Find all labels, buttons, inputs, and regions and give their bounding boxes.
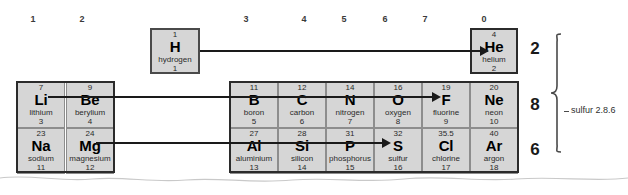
arrow-magnesium-to-sulfur-line bbox=[96, 142, 384, 144]
shell-grouping-bracket bbox=[549, 32, 565, 154]
element-cell-sulfur[interactable]: 32Ssulfur16 bbox=[374, 128, 422, 174]
group-header-2: 2 bbox=[72, 14, 92, 24]
element-cell-argon[interactable]: 40Arargon18 bbox=[470, 128, 518, 174]
element-atomic-number: 4 bbox=[67, 117, 113, 127]
element-cell-oxygen[interactable]: 16Ooxygen8 bbox=[374, 82, 422, 128]
element-cell-sodium[interactable]: 23Nasodium11 bbox=[17, 128, 65, 174]
group-header-4: 4 bbox=[294, 14, 314, 24]
element-symbol: Al bbox=[231, 138, 277, 154]
element-cell-berylium[interactable]: 9Beberylium4 bbox=[66, 82, 114, 128]
element-symbol: N bbox=[327, 92, 373, 108]
element-symbol: Na bbox=[18, 138, 64, 154]
element-cell-fluorine[interactable]: 19Ffluorine9 bbox=[422, 82, 470, 128]
element-cell-lithium[interactable]: 7Lilithium3 bbox=[17, 82, 65, 128]
arrow-beryllium-to-neon-head bbox=[432, 92, 441, 102]
arrow-hydrogen-to-helium-head bbox=[480, 46, 489, 56]
element-atomic-number: 5 bbox=[231, 117, 277, 127]
element-symbol: P bbox=[327, 138, 373, 154]
element-cell-neon[interactable]: 20Neneon10 bbox=[470, 82, 518, 128]
element-cell-hydrogen[interactable]: 1 H hydrogen 1 bbox=[150, 28, 200, 74]
element-atomic-number: 6 bbox=[279, 117, 325, 127]
element-symbol: F bbox=[423, 92, 469, 108]
group-header-7: 7 bbox=[415, 14, 435, 24]
element-cell-phosphorus[interactable]: 31Pphosphorus15 bbox=[326, 128, 374, 174]
element-atomic-number: 3 bbox=[18, 117, 64, 127]
element-atomic-number: 8 bbox=[375, 117, 421, 127]
element-symbol: B bbox=[231, 92, 277, 108]
element-symbol: Mg bbox=[67, 138, 113, 154]
element-cell-aluminium[interactable]: 27Alaluminium13 bbox=[230, 128, 278, 174]
group-header-6: 6 bbox=[375, 14, 395, 24]
annotation-leader-dash bbox=[564, 111, 569, 112]
arrow-beryllium-to-neon-line bbox=[48, 96, 434, 98]
element-symbol: Ne bbox=[471, 92, 517, 108]
element-symbol: C bbox=[279, 92, 325, 108]
annotation-sulfur-configuration: sulfur 2.8.6 bbox=[571, 105, 616, 115]
group-header-0: 0 bbox=[474, 14, 494, 24]
element-symbol: O bbox=[375, 92, 421, 108]
element-cell-boron[interactable]: 11Bboron5 bbox=[230, 82, 278, 128]
element-atomic-number: 9 bbox=[423, 117, 469, 127]
element-symbol: Ar bbox=[471, 138, 517, 154]
element-atomic-number: 2 bbox=[472, 64, 516, 74]
element-symbol: He bbox=[472, 39, 516, 55]
element-atomic-number: 10 bbox=[471, 117, 517, 127]
torn-paper-edge bbox=[0, 169, 628, 195]
shell-count-1: 2 bbox=[524, 39, 546, 59]
element-atomic-number: 1 bbox=[152, 64, 198, 74]
element-cell-carbon[interactable]: 12Ccarbon6 bbox=[278, 82, 326, 128]
element-cell-magnesium[interactable]: 24Mgmagnesium12 bbox=[66, 128, 114, 174]
arrow-magnesium-to-sulfur-head bbox=[382, 138, 391, 148]
element-cell-chlorine[interactable]: 35.5Clchlorine17 bbox=[422, 128, 470, 174]
shell-count-3: 6 bbox=[524, 140, 546, 160]
element-cell-silicon[interactable]: 28Sisilicon14 bbox=[278, 128, 326, 174]
element-symbol: Be bbox=[67, 92, 113, 108]
element-symbol: Cl bbox=[423, 138, 469, 154]
element-symbol: Si bbox=[279, 138, 325, 154]
element-atomic-number: 7 bbox=[327, 117, 373, 127]
shell-count-2: 8 bbox=[524, 95, 546, 115]
group-header-5: 5 bbox=[334, 14, 354, 24]
group-header-3: 3 bbox=[236, 14, 256, 24]
element-symbol: Li bbox=[18, 92, 64, 108]
element-symbol: H bbox=[152, 39, 198, 55]
periodic-table-diagram: 12345670 1 H hydrogen 1 4 He helium 2 7L… bbox=[0, 0, 628, 195]
group-header-1: 1 bbox=[23, 14, 43, 24]
arrow-hydrogen-to-helium-line bbox=[200, 50, 482, 52]
element-cell-nitrogen[interactable]: 14Nnitrogen7 bbox=[326, 82, 374, 128]
